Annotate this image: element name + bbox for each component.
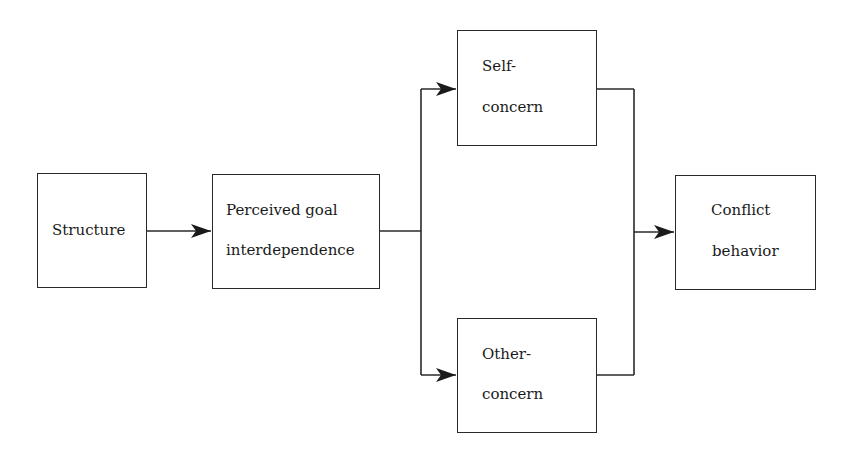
node-conflict-label-line1: Conflict <box>711 203 770 218</box>
node-perceived-label-line2: interdependence <box>226 243 355 258</box>
node-conflict-label-line2: behavior <box>712 244 779 259</box>
node-perceived-label-line1: Perceived goal <box>226 203 338 218</box>
node-other-label-line2: concern <box>482 387 543 402</box>
node-conflict-behavior <box>675 175 816 290</box>
node-other-concern <box>457 318 597 433</box>
node-self-label-line2: concern <box>482 100 543 115</box>
node-self-concern <box>457 30 597 146</box>
node-perceived-goal-interdependence <box>212 174 380 289</box>
node-other-label-line1: Other- <box>482 347 531 362</box>
node-self-label-line1: Self- <box>482 59 516 74</box>
node-structure-label: Structure <box>52 223 125 238</box>
